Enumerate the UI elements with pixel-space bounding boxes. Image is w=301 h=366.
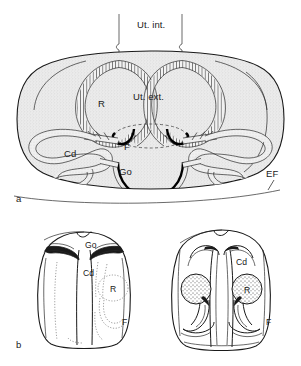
panel-b: Go Cd R F (16, 230, 271, 351)
anatomical-figure: Ut. int. R (0, 0, 301, 366)
panel-marker-b: b (16, 339, 21, 350)
ef-leader-line (268, 180, 274, 190)
panel-b-left-figure: Go Cd R F (38, 232, 131, 349)
epigynal-fold-line (14, 190, 280, 203)
label-cd-left: Cd (64, 148, 76, 159)
label-ef: EF (266, 168, 278, 179)
b-right-label-f: F (266, 317, 271, 327)
b-right-label-r: R (244, 285, 250, 295)
label-go: Go (119, 166, 132, 177)
panel-marker-a: a (16, 193, 22, 204)
b-left-label-cd: Cd (83, 268, 94, 278)
panel-a: Ut. int. R (14, 14, 284, 204)
b-left-label-r: R (110, 284, 116, 294)
b-right-label-cd: Cd (236, 257, 247, 267)
label-r-left: R (98, 98, 105, 109)
b-left-label-go: Go (85, 240, 97, 250)
label-ut-ext: Ut. ext. (133, 91, 164, 102)
figure-root: Ut. int. R (0, 0, 301, 366)
label-ut-int: Ut. int. (137, 19, 165, 30)
label-f: F (124, 141, 130, 152)
b-left-label-f: F (122, 317, 127, 327)
panel-b-right-figure: Cd R F (172, 230, 272, 351)
